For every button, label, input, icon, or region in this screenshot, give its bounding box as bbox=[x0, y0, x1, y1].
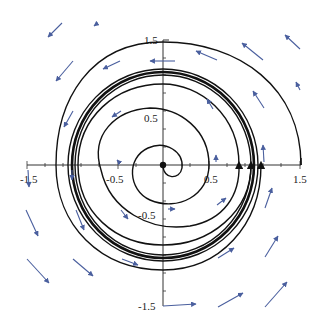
x-tick-label: -0.5 bbox=[106, 173, 124, 185]
y-tick-label: 0.5 bbox=[144, 112, 158, 124]
trajectories bbox=[56, 42, 301, 270]
fixed-point bbox=[160, 162, 166, 168]
phase-portrait: -1.5 -0.5 0.5 1.5 1.5 0.5 -0.5 -1.5 bbox=[0, 0, 321, 325]
y-tick-label: 1.5 bbox=[144, 34, 158, 46]
x-tick-label: 1.5 bbox=[293, 173, 307, 185]
y-tick-label: -1.5 bbox=[138, 300, 156, 312]
